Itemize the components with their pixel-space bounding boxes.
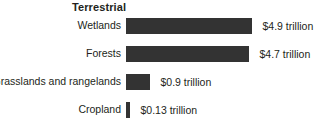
bar-grasslands-and-rangelands <box>126 74 150 90</box>
bar-wetlands <box>126 18 252 34</box>
value-label-grasslands-and-rangelands: $0.9 trillion <box>160 74 211 90</box>
category-label-cropland: Cropland <box>78 103 121 115</box>
category-label-wetlands: Wetlands <box>77 19 121 31</box>
bar-track-forests: $4.7 trillion <box>126 46 310 62</box>
bar-forests <box>126 46 249 62</box>
bar-track-wetlands: $4.9 trillion <box>126 18 313 34</box>
value-label-forests: $4.7 trillion <box>259 46 310 62</box>
bar-track-grasslands-and-rangelands: $0.9 trillion <box>126 74 211 90</box>
table-row: Forests $4.7 trillion <box>0 46 324 74</box>
bar-cropland <box>126 102 130 118</box>
chart-title: Terrestrial <box>72 1 126 13</box>
value-label-cropland: $0.13 trillion <box>140 102 197 118</box>
table-row: Grasslands and rangelands $0.9 trillion <box>0 74 324 102</box>
value-label-wetlands: $4.9 trillion <box>262 18 313 34</box>
category-label-grasslands-and-rangelands: Grasslands and rangelands <box>0 75 121 87</box>
bar-rows: Wetlands $4.9 trillion Forests $4.7 tril… <box>0 18 324 130</box>
table-row: Wetlands $4.9 trillion <box>0 18 324 46</box>
category-label-forests: Forests <box>86 47 121 59</box>
terrestrial-bar-chart: Terrestrial Wetlands $4.9 trillion Fores… <box>0 0 324 140</box>
bar-track-cropland: $0.13 trillion <box>126 102 197 118</box>
table-row: Cropland $0.13 trillion <box>0 102 324 130</box>
